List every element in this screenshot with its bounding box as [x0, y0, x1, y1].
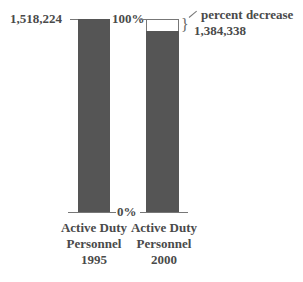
tick-label-0: 0% [117, 204, 137, 220]
bar-2000 [146, 31, 179, 212]
baseline-left [68, 212, 116, 213]
x-label-2000-line2: Personnel [124, 236, 204, 252]
x-label-2000-line3: 2000 [124, 252, 204, 268]
value-label-2000: 1,384,338 [194, 23, 246, 39]
x-label-1995-line3: 1995 [54, 252, 134, 268]
brace-icon: } [181, 18, 189, 32]
baseline-right [140, 212, 188, 213]
tick-label-100: 100% [112, 11, 145, 27]
x-label-2000: Active Duty Personnel 2000 [124, 220, 204, 268]
annotation-pointer [189, 11, 197, 18]
value-label-1995: 1,518,224 [10, 11, 62, 27]
x-label-1995-line1: Active Duty [54, 220, 134, 236]
x-label-1995: Active Duty Personnel 1995 [54, 220, 134, 268]
annotation-percent-decrease: percent decrease [201, 7, 293, 23]
x-label-1995-line2: Personnel [54, 236, 134, 252]
x-label-2000-line1: Active Duty [124, 220, 204, 236]
bar-1995 [78, 19, 110, 212]
